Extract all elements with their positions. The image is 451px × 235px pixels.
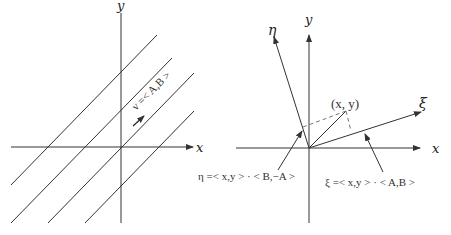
right-panel: x y η ξ (x, y) η =< x,y > · < B,−A > ξ =… [198,12,440,223]
point-label: (x, y) [331,96,359,111]
diagram-canvas: x y v =< A,B > x y η ξ (x, y) η =< x,y >… [0,0,451,235]
eta-axis [274,37,309,148]
vector-v-label: v =< A,B > [129,69,173,113]
eta-label: η [268,22,277,38]
left-y-label: y [116,0,125,13]
left-panel: x y v =< A,B > [11,0,204,223]
parallel-line-4 [85,111,194,223]
direction-arrow [133,116,144,126]
xi-equation: ξ =< x,y > · < A,B > [325,176,415,189]
right-x-label: x [432,141,440,156]
eta-pointer [278,131,302,170]
projection-dash-xi [346,111,351,131]
left-x-label: x [196,140,204,155]
xi-axis [309,112,421,148]
eta-equation: η =< x,y > · < B,−A > [198,170,295,182]
parallel-line-2 [11,58,172,223]
xi-label: ξ [419,95,428,111]
right-y-label: y [304,12,313,27]
xi-pointer [365,134,383,172]
